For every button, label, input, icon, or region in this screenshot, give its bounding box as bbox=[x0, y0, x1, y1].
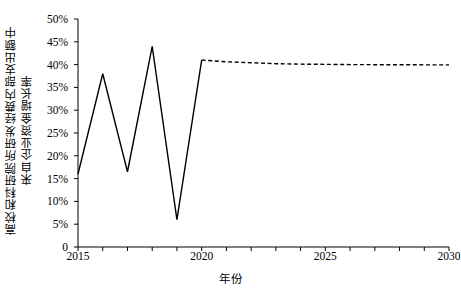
y-axis-title: 高校和科研院所研发经费内部支出额中 来自企业资金增长率 bbox=[0, 0, 36, 260]
chart-figure: 高校和科研院所研发经费内部支出额中 来自企业资金增长率 50%45%40%35%… bbox=[0, 0, 461, 296]
y-axis-tick-label: 15% bbox=[47, 173, 68, 185]
series-historical-line bbox=[78, 46, 202, 219]
y-axis-tick-label: 20% bbox=[47, 150, 68, 162]
chart-canvas bbox=[78, 19, 449, 247]
y-axis-tick-label: 40% bbox=[47, 59, 68, 71]
x-axis-tick-label: 2020 bbox=[190, 249, 213, 263]
x-axis-tick-label: 2025 bbox=[314, 249, 337, 263]
x-axis-title: 年份 bbox=[0, 270, 461, 286]
x-axis-tick-labels: 2015202020252030 bbox=[0, 249, 461, 269]
x-axis-tick-label: 2015 bbox=[67, 249, 90, 263]
y-axis-tick-label: 25% bbox=[47, 127, 68, 139]
y-axis-tick-label: 10% bbox=[47, 195, 68, 207]
y-axis-tick-label: 45% bbox=[47, 36, 68, 48]
y-axis-tick-label: 30% bbox=[47, 104, 68, 116]
axis-ticks bbox=[74, 19, 449, 251]
y-axis-title-line-2: 来自企业资金增长率 bbox=[18, 0, 36, 260]
series-forecast-line bbox=[202, 60, 449, 65]
y-axis-tick-label: 5% bbox=[53, 218, 68, 230]
y-axis-tick-label: 35% bbox=[47, 81, 68, 93]
plot-area bbox=[78, 19, 449, 247]
x-axis-tick-label: 2030 bbox=[438, 249, 461, 263]
y-axis-tick-label: 50% bbox=[47, 13, 68, 25]
